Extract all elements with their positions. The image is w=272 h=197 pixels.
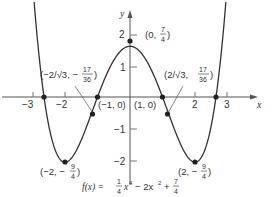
formula-t2-exp: 2: [158, 180, 162, 186]
label-infl-left-num: 17: [83, 66, 91, 73]
y-tick-label: 1: [120, 62, 126, 73]
x-axis-label: x: [256, 99, 262, 110]
formula-t1-num: 1: [117, 178, 121, 185]
point-root-neg-outer: [41, 94, 46, 99]
y-axis-arrow-icon: [128, 10, 133, 18]
y-tick-label: −2: [114, 156, 126, 167]
x-tick-label: 2: [192, 99, 198, 110]
formula-t3-den: 4: [174, 188, 178, 195]
label-max: (0,: [145, 29, 156, 40]
x-tick-label: −3: [22, 99, 34, 110]
label-infl-right-num: 17: [199, 66, 207, 73]
label-root-neg1: (−1, 0): [98, 99, 126, 110]
x-ticks: −3 −2 2 3: [22, 92, 230, 110]
point-min-left: [62, 159, 67, 164]
leader-line-left: [75, 86, 93, 113]
label-infl-left: (−2/√3, −: [40, 69, 78, 80]
label-max-den: 4: [161, 36, 165, 43]
point-root-pos1: [160, 94, 165, 99]
label-max-num: 7: [161, 26, 165, 33]
point-max: [127, 38, 132, 43]
function-formula: f(x) = 1 4 x 4 − 2x 2 + 7 4: [82, 178, 179, 195]
label-min-right-close: ): [208, 166, 211, 177]
formula-t2: − 2x: [135, 181, 153, 192]
label-min-left: (−2, −: [40, 166, 65, 177]
label-infl-right-den: 36: [199, 76, 207, 83]
label-min-left-den: 4: [71, 173, 75, 180]
label-min-right-num: 9: [202, 163, 206, 170]
label-infl-left-close: ): [94, 69, 97, 80]
y-tick-label: 2: [119, 29, 125, 40]
function-graph: x y −3 −2 2 3 2 1 −1 −2: [0, 0, 272, 197]
y-axis-label: y: [119, 8, 125, 19]
point-inflection-left: [90, 111, 95, 116]
label-infl-right: (2/√3,: [164, 69, 188, 80]
point-min-right: [192, 159, 197, 164]
formula-lhs: f(x) =: [82, 182, 104, 193]
formula-t1-den: 4: [117, 188, 121, 195]
y-ticks: 2 1 −1 −2: [114, 29, 137, 167]
label-infl-left-den: 36: [83, 76, 91, 83]
label-min-right-den: 4: [202, 173, 206, 180]
x-tick-label: −2: [56, 99, 68, 110]
x-tick-label: 3: [224, 99, 230, 110]
label-min-left-num: 9: [71, 163, 75, 170]
y-tick-label: −1: [114, 124, 126, 135]
point-inflection-right: [165, 111, 170, 116]
label-root-pos1: (1, 0): [134, 99, 156, 110]
label-min-right: (2, −: [178, 166, 198, 177]
formula-plus: +: [164, 181, 170, 192]
label-infl-right-close: ): [210, 69, 213, 80]
label-min-left-close: ): [77, 166, 80, 177]
formula-t3-num: 7: [174, 178, 178, 185]
leader-line-right: [168, 86, 183, 113]
point-root-pos-outer: [213, 94, 218, 99]
label-max-close: ): [167, 29, 170, 40]
formula-t1-exp: 4: [129, 180, 133, 186]
